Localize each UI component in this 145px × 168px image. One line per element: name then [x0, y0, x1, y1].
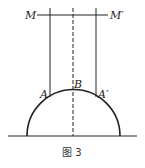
label-b: B: [73, 78, 82, 91]
label-a: A: [39, 88, 48, 101]
label-m: M: [24, 9, 37, 22]
label-m-prime: M′: [109, 9, 124, 22]
diagram-figure: M M′ A B A′ 图 3: [0, 0, 145, 168]
label-a-prime: A′: [97, 88, 109, 101]
figure-caption: 图 3: [62, 147, 82, 158]
